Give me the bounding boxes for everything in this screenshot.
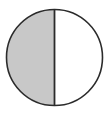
half-shaded-circle-figure — [0, 0, 109, 116]
circle-diagram-svg — [0, 0, 109, 116]
left-half-shaded-region — [7, 10, 55, 106]
right-half-unshaded-region — [55, 10, 103, 106]
